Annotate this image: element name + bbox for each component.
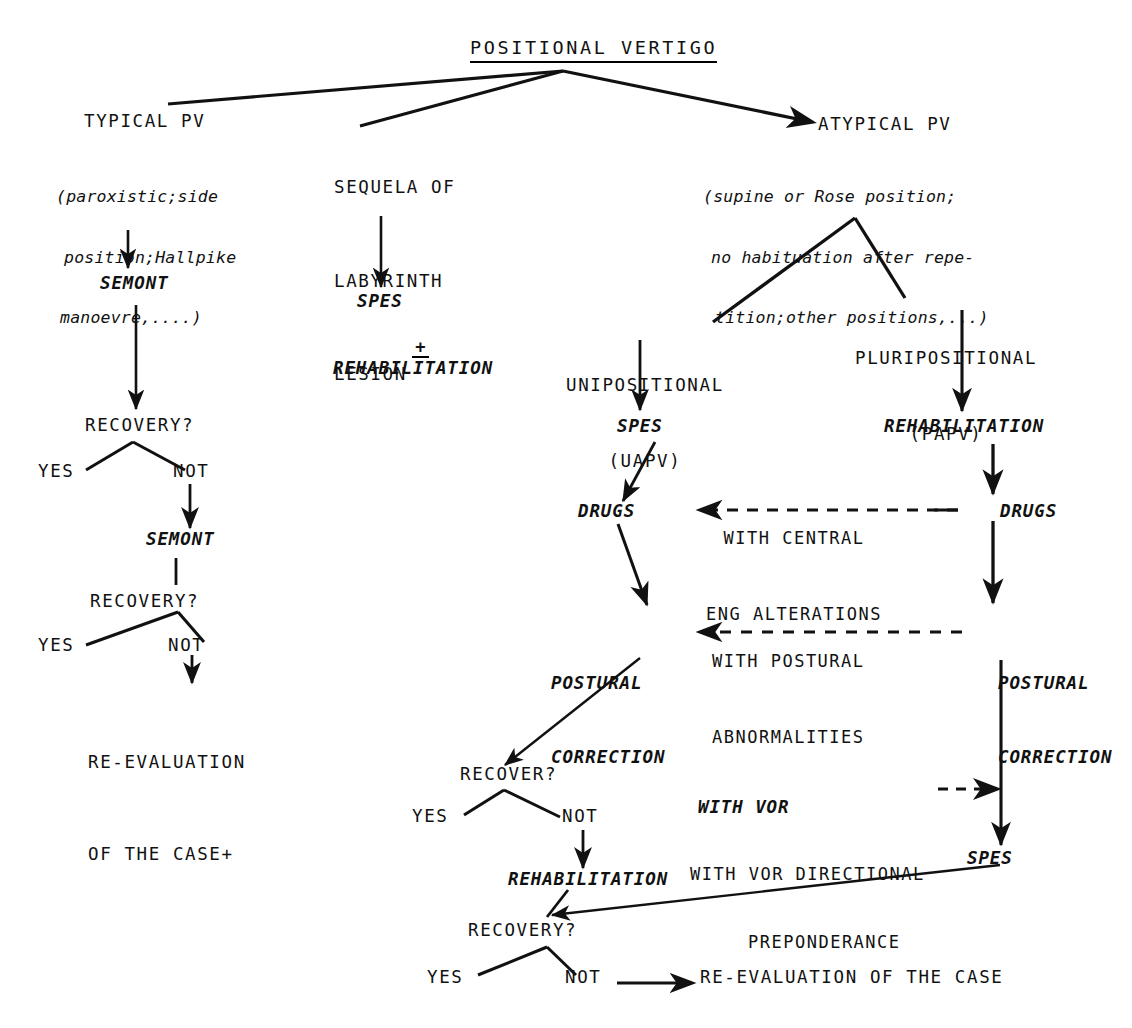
node-pluri-postural-correction: POSTURAL CORRECTION bbox=[998, 621, 1112, 820]
typical-detail-line-3: manoevre,....) bbox=[56, 308, 236, 328]
node-typical-pv-heading: TYPICAL PV bbox=[84, 110, 205, 133]
sequela-line-1: SEQUELA OF bbox=[334, 172, 455, 203]
wire-title-to-typical bbox=[168, 71, 563, 104]
unipositional-line-2: (UAPV) bbox=[566, 449, 724, 474]
wire-recovery2-split-yes bbox=[86, 612, 178, 645]
node-uni-postural-correction: POSTURAL CORRECTION bbox=[551, 621, 665, 820]
reevaluation-line-2: OF THE CASE+ bbox=[88, 839, 246, 870]
node-atypical-pv-heading: ATYPICAL PV bbox=[818, 113, 952, 136]
label-typical-yes-1: YES bbox=[38, 460, 74, 483]
node-recovery-decision-bottom: RECOVERY? bbox=[468, 919, 577, 942]
pluripositional-line-1: PLURIPOSITIONAL bbox=[855, 346, 1037, 371]
node-pluri-drugs: DRUGS bbox=[1000, 500, 1057, 523]
node-typical-recovery-1: RECOVERY? bbox=[85, 414, 194, 437]
uni-postural-line-1: POSTURAL bbox=[551, 671, 665, 696]
unipositional-line-1: UNIPOSITIONAL bbox=[566, 373, 724, 398]
label-recover-yes: YES bbox=[412, 805, 448, 828]
reevaluation-line-1: RE-EVALUATION bbox=[88, 747, 246, 778]
wire-rehabilitation-to-recovery bbox=[547, 890, 568, 917]
label-recovery-not-bottom: NOT bbox=[565, 966, 601, 989]
postural-label-line-1: WITH POSTURAL bbox=[712, 649, 865, 674]
diagram-title: POSITIONAL VERTIGO bbox=[470, 36, 717, 63]
atypical-detail-line-1: (supine or Rose position; bbox=[703, 187, 989, 207]
node-sequela-heading: SEQUELA OF LABYRINTH LESION bbox=[334, 110, 455, 453]
pluri-postural-line-1: POSTURAL bbox=[998, 671, 1112, 696]
typical-detail-line-2: position;Hallpike bbox=[56, 248, 236, 268]
node-typical-semont-2: SEMONT bbox=[146, 528, 215, 551]
plus-symbol: + bbox=[412, 339, 429, 358]
typical-detail-line-1: (paroxistic;side bbox=[56, 187, 236, 207]
wire-recovery-split-yes bbox=[478, 947, 547, 975]
wire-recover-split-yes bbox=[464, 790, 504, 815]
node-uni-drugs: DRUGS bbox=[578, 500, 635, 523]
node-final-reevaluation: RE-EVALUATION OF THE CASE bbox=[700, 966, 1003, 989]
wire-uni-drugs-to-postural bbox=[618, 524, 647, 605]
uni-postural-line-2: CORRECTION bbox=[551, 745, 665, 770]
wire-recovery1-split-yes bbox=[86, 442, 133, 470]
node-sequela-rehabilitation: REHABILITATION bbox=[333, 357, 493, 380]
node-typical-reevaluation: RE-EVALUATION OF THE CASE+ bbox=[88, 686, 246, 931]
label-typical-not-1: NOT bbox=[173, 460, 209, 483]
vor-label-line-1: WITH VOR bbox=[698, 795, 925, 819]
node-bottom-rehabilitation: REHABILITATION bbox=[508, 868, 668, 891]
node-typical-recovery-2: RECOVERY? bbox=[90, 590, 199, 613]
label-typical-not-2: NOT bbox=[168, 634, 204, 657]
node-pluripositional: PLURIPOSITIONAL (PAPV) bbox=[855, 295, 1037, 498]
label-typical-yes-2: YES bbox=[38, 634, 74, 657]
node-typical-semont-1: SEMONT bbox=[100, 272, 169, 295]
wire-title-to-atypical bbox=[563, 71, 812, 122]
node-pluri-spes: SPES bbox=[967, 847, 1013, 870]
node-typical-pv-detail: (paroxistic;side position;Hallpike manoe… bbox=[56, 147, 236, 368]
atypical-detail-line-2: no habituation after repe- bbox=[703, 248, 989, 268]
vor-label-line-3: PREPONDERANCE bbox=[748, 931, 925, 954]
node-uni-spes: SPES bbox=[617, 415, 663, 438]
pluri-postural-line-2: CORRECTION bbox=[998, 745, 1112, 770]
flowchart-canvas: POSITIONAL VERTIGO TYPICAL PV (paroxisti… bbox=[0, 0, 1132, 1028]
vor-label-line-2: WITH VOR DIRECTIONAL bbox=[690, 863, 925, 886]
central-label-line-1: WITH CENTRAL bbox=[706, 526, 882, 551]
node-recover-decision: RECOVER? bbox=[460, 763, 557, 786]
label-recovery-yes-bottom: YES bbox=[427, 966, 463, 989]
label-vor-group: WITH VOR WITH VOR DIRECTIONAL PREPONDERA… bbox=[698, 751, 925, 999]
postural-label-line-2: ABNORMALITIES bbox=[712, 725, 865, 750]
node-sequela-spes: SPES bbox=[357, 290, 403, 313]
label-recover-not: NOT bbox=[562, 805, 598, 828]
node-pluri-rehabilitation: REHABILITATION bbox=[884, 415, 1044, 438]
